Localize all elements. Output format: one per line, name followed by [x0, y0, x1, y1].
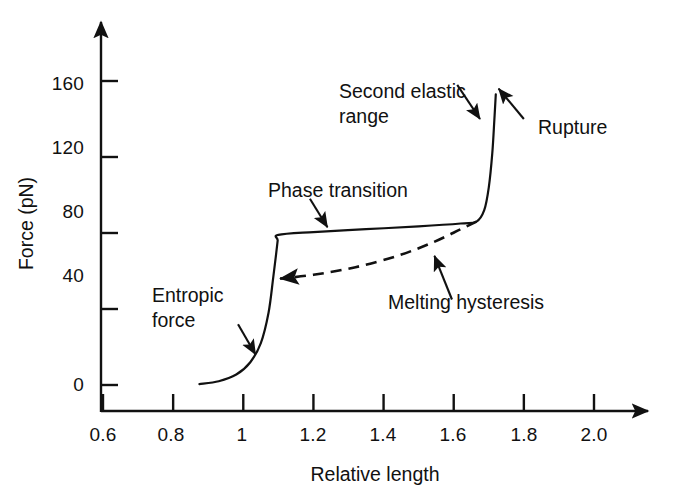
x-tick-label-1-8: 1.8 [494, 424, 554, 446]
stretching-curve [199, 94, 495, 384]
x-axis-title: Relative length [255, 463, 495, 486]
arrow-phase-transition [310, 199, 328, 228]
force-extension-chart: 160 120 80 40 0 0.6 0.8 1 1.2 1.4 1.6 1.… [0, 0, 684, 504]
annotation-phase-transition: Phase transition [268, 178, 408, 203]
y-axis-ticks [101, 81, 118, 385]
x-tick-label-1-2: 1.2 [283, 424, 343, 446]
x-tick-label-1: 1 [212, 424, 272, 446]
y-tick-label-160: 160 [22, 73, 84, 95]
annotation-melting-hysteresis: Melting hysteresis [388, 290, 544, 315]
x-tick-label-2-0: 2.0 [564, 424, 624, 446]
arrow-rupture [499, 89, 524, 119]
x-tick-label-1-6: 1.6 [423, 424, 483, 446]
x-axis-ticks [103, 394, 594, 411]
x-tick-label-0-6: 0.6 [73, 424, 133, 446]
x-tick-label-1-4: 1.4 [353, 424, 413, 446]
annotation-rupture: Rupture [538, 115, 607, 140]
y-axis-title: Force (pN) [15, 154, 38, 294]
x-tick-label-0-8: 0.8 [141, 424, 201, 446]
melting-hysteresis-curve [280, 222, 476, 279]
arrow-entropic-force [238, 324, 256, 354]
annotation-second-elastic-range: Second elastic range [339, 79, 466, 129]
annotation-entropic-force: Entropic force [152, 283, 224, 333]
y-tick-label-0: 0 [22, 374, 84, 396]
